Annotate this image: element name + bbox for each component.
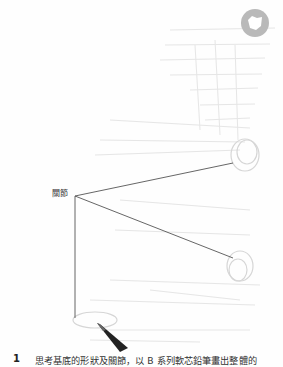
step-text: 思考基底的形狀及關節，以 B 系列軟芯鉛筆畫出整體的 [35, 353, 257, 367]
pencil-sketch-figure [0, 0, 283, 367]
chapter-circle-icon [241, 9, 269, 37]
pencil-icon [97, 323, 128, 352]
illustration-page: 關節 1 思考基底的形狀及關節，以 B 系列軟芯鉛筆畫出整體的 [0, 0, 283, 367]
step-caption: 1 思考基底的形狀及關節，以 B 系列軟芯鉛筆畫出整體的 [0, 351, 283, 367]
step-number: 1 [13, 353, 20, 364]
armature-lines [75, 163, 233, 318]
joint-label: 關節 [52, 187, 68, 198]
